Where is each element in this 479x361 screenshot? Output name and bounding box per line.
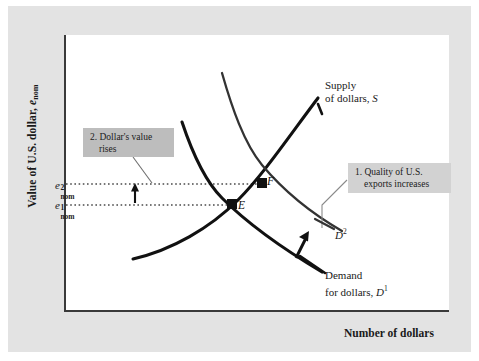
callout-line-1: 1. Quality of U.S. bbox=[355, 167, 423, 177]
y-tick-superscript: 2 bbox=[60, 183, 64, 192]
figure-root: Value of U.S. dollar, enom Number of dol… bbox=[0, 0, 479, 361]
y-tick-superscript: 1 bbox=[60, 203, 64, 212]
y-axis-title-subscript: nom bbox=[31, 84, 40, 99]
demand-curve-2-label: D2 bbox=[335, 225, 347, 242]
callout-quality-exports: 1. Quality of U.S.exports increases bbox=[348, 163, 451, 193]
y-tick-base: e bbox=[55, 199, 60, 211]
d2-label-superscript: 2 bbox=[343, 227, 347, 236]
d2-label-symbol: D bbox=[335, 229, 343, 241]
supply-label-line-1: Supply bbox=[325, 79, 356, 91]
callout-line-2: exports increases bbox=[355, 179, 445, 191]
y-tick-subscript: nom bbox=[60, 212, 74, 221]
supply-label-symbol: S bbox=[372, 92, 378, 104]
supply-curve-label: Supplyof dollars, S bbox=[325, 79, 378, 105]
y-tick-label-e2-nom: e2nom bbox=[22, 179, 60, 191]
point-label-F: F bbox=[267, 175, 274, 187]
demand-curve-label: Demandfor dollars, D1 bbox=[325, 269, 388, 299]
demand-label-line-1: Demand bbox=[325, 269, 362, 281]
point-label-E: E bbox=[238, 199, 245, 211]
supply-label-line-2: of dollars, bbox=[325, 92, 372, 104]
y-tick-subscript: nom bbox=[60, 192, 74, 201]
demand-label-line-2: for dollars, bbox=[325, 286, 376, 298]
y-axis-title: Value of U.S. dollar, enom bbox=[26, 36, 40, 256]
x-axis-title: Number of dollars bbox=[344, 327, 434, 339]
demand-label-symbol: D bbox=[376, 286, 384, 298]
callout-dollar-value-rises: 2. Dollar's valuerises bbox=[83, 128, 174, 157]
y-axis-title-text: Value of U.S. dollar, bbox=[26, 105, 38, 208]
callout-line-1: 2. Dollar's value bbox=[90, 132, 152, 142]
demand-label-superscript: 1 bbox=[384, 284, 388, 293]
y-axis-title-symbol: e bbox=[26, 100, 38, 105]
y-tick-base: e bbox=[55, 179, 60, 191]
callout-line-2: rises bbox=[90, 144, 168, 156]
y-tick-label-e1-nom: e1nom bbox=[22, 199, 60, 211]
